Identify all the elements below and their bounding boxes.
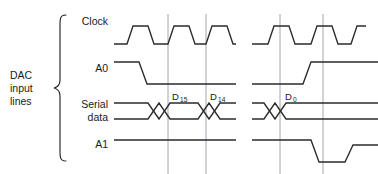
timing-diagram-figure: DAC input lines Clock A0 Serial data A1 …	[0, 0, 378, 174]
waveform-clock	[114, 26, 366, 44]
group-label-dac-input-lines: DAC input lines	[10, 69, 33, 107]
bit-label-d14-subscript: 14	[218, 96, 226, 103]
bit-label-d0-base: D	[285, 91, 292, 102]
signal-label-a0: A0	[95, 62, 108, 74]
waveforms-group	[114, 26, 378, 162]
waveform-a1	[114, 140, 378, 162]
bit-labels-group: D 15 D 14 D 0	[172, 91, 297, 103]
bit-label-d0: D 0	[285, 91, 297, 103]
bit-label-d14: D 14	[210, 91, 226, 103]
bit-label-d14-base: D	[210, 91, 217, 102]
bit-label-d0-subscript: 0	[293, 96, 297, 103]
waveform-a0	[114, 62, 378, 84]
group-brace	[54, 15, 66, 161]
signal-label-serial-line1: Serial	[81, 98, 108, 110]
group-label-line-2: input	[10, 82, 33, 94]
signal-label-clock: Clock	[82, 15, 109, 27]
bit-label-d15-base: D	[172, 91, 179, 102]
signal-label-serial-line2: data	[88, 111, 109, 123]
bit-label-d15-subscript: 15	[180, 96, 188, 103]
bit-label-d15: D 15	[172, 91, 188, 103]
signal-label-a1: A1	[95, 138, 108, 150]
gridlines-group	[168, 14, 323, 174]
group-label-line-3: lines	[10, 95, 32, 107]
waveform-serial-data-lower	[114, 103, 378, 119]
group-label-line-1: DAC	[10, 69, 33, 81]
signal-labels-group: Clock A0 Serial data A1	[81, 15, 109, 150]
timing-diagram-canvas: DAC input lines Clock A0 Serial data A1 …	[0, 0, 378, 174]
